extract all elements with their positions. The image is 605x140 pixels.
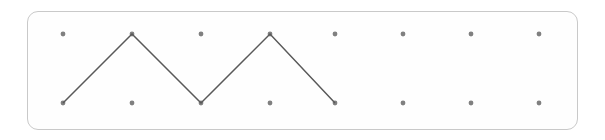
peg-dot-r1-c6[interactable] [469,101,474,106]
peg-dot-r1-c7[interactable] [537,101,542,106]
peg-dot-r1-c1[interactable] [130,101,135,106]
geoboard-canvas[interactable] [0,0,605,140]
peg-dot-r0-c4[interactable] [333,32,338,37]
zigzag-shape-layer [63,34,335,103]
peg-dot-r0-c0[interactable] [61,32,66,37]
peg-dot-r0-c6[interactable] [469,32,474,37]
zigzag-polyline[interactable] [63,34,335,103]
geoboard-stage [0,0,605,140]
peg-dot-r0-c7[interactable] [537,32,542,37]
peg-dot-r0-c5[interactable] [401,32,406,37]
peg-dot-grid [61,32,542,106]
peg-dot-r1-c3[interactable] [268,101,273,106]
peg-dot-r1-c5[interactable] [401,101,406,106]
peg-dot-r0-c2[interactable] [199,32,204,37]
